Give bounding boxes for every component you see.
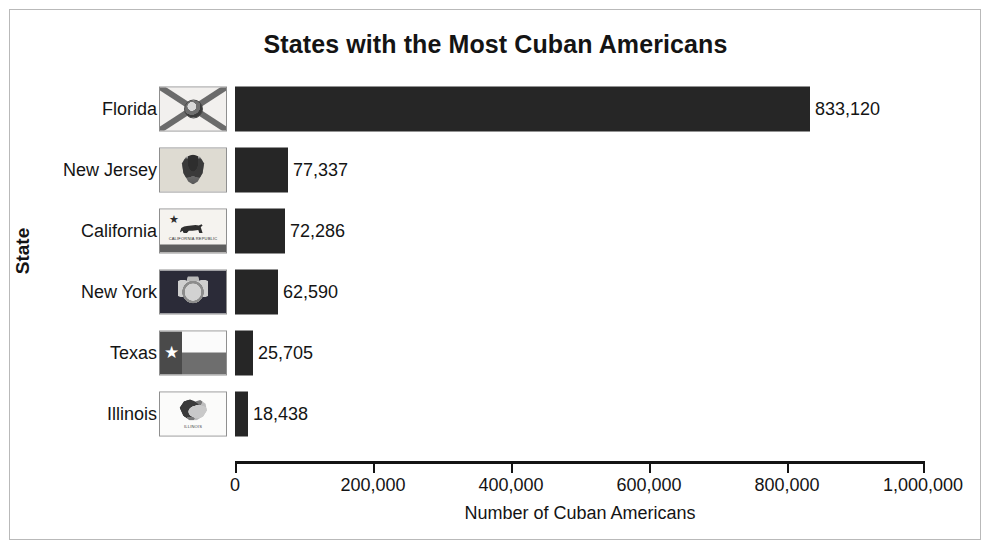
bar-value-california: 72,286: [290, 220, 345, 241]
california-bear-icon: [180, 221, 204, 236]
x-axis-tick-0: [235, 461, 237, 473]
y-axis-label: State: [12, 211, 34, 291]
bar-new-jersey: [235, 147, 288, 192]
bar-texas: [235, 330, 253, 375]
x-axis-tick-1: [373, 461, 375, 473]
x-axis-tick-label-2: 400,000: [478, 475, 543, 496]
x-axis-tick-3: [649, 461, 651, 473]
category-label-new-jersey: New Jersey: [63, 159, 157, 180]
bar-california: [235, 208, 285, 253]
bar-florida: [235, 86, 810, 131]
chart-figure: States with the Most Cuban Americans Sta…: [0, 0, 991, 550]
florida-flag-icon: [159, 86, 227, 131]
x-axis-label: Number of Cuban Americans: [235, 503, 925, 524]
illinois-flag-icon: ILLINOIS: [159, 391, 227, 436]
illinois-flag-caption: ILLINOIS: [160, 423, 226, 428]
category-label-illinois: Illinois: [107, 403, 157, 424]
bar-value-texas: 25,705: [258, 342, 313, 363]
category-label-texas: Texas: [110, 342, 157, 363]
x-axis-line: [235, 461, 925, 464]
illinois-eagle-icon: [178, 398, 208, 422]
category-label-new-york: New York: [81, 281, 157, 302]
california-flag-icon: ★ CALIFORNIA REPUBLIC: [159, 208, 227, 253]
x-axis-tick-4: [787, 461, 789, 473]
x-axis-tick-label-3: 600,000: [616, 475, 681, 496]
category-label-florida: Florida: [102, 98, 157, 119]
x-axis-tick-2: [511, 461, 513, 473]
texas-flag-icon: ★: [159, 330, 227, 375]
new-jersey-flag-icon: [159, 147, 227, 192]
category-label-california: California: [81, 220, 157, 241]
x-axis-tick-5: [923, 461, 925, 473]
bar-new-york: [235, 269, 278, 314]
california-star-icon: ★: [169, 213, 179, 224]
x-axis-tick-label-0: 0: [230, 475, 240, 496]
chart-title: States with the Most Cuban Americans: [0, 30, 991, 59]
x-axis-tick-label-1: 200,000: [340, 475, 405, 496]
bar-value-new-jersey: 77,337: [293, 159, 348, 180]
bar-value-illinois: 18,438: [253, 403, 308, 424]
bar-illinois: [235, 391, 248, 436]
x-axis-tick-label-5: 1,000,000: [883, 475, 963, 496]
california-flag-caption: CALIFORNIA REPUBLIC: [160, 236, 226, 241]
bar-value-florida: 833,120: [815, 98, 880, 119]
plot-area: Florida 833,120 New Jersey 77,337 Califo…: [235, 78, 925, 458]
x-axis-tick-label-4: 800,000: [754, 475, 819, 496]
texas-star-icon: ★: [164, 344, 179, 361]
bar-value-new-york: 62,590: [283, 281, 338, 302]
x-axis: 0 200,000 400,000 600,000 800,000 1,000,…: [235, 461, 925, 462]
new-york-flag-icon: [159, 269, 227, 314]
